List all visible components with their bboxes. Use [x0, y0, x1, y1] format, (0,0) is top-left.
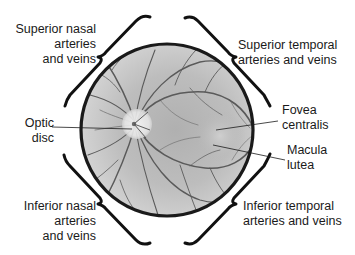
label-superior-nasal: Superior nasal arteries and veins — [6, 22, 96, 67]
label-macula-lutea: Macula lutea — [287, 143, 327, 173]
retina-fundus — [81, 44, 253, 216]
label-inferior-temporal: Inferior temporal arteries and veins — [243, 199, 342, 229]
label-fovea-centralis: Fovea centralis — [282, 103, 329, 133]
macula-region — [194, 110, 246, 162]
optic-disc — [122, 109, 152, 139]
label-optic-disc: Optic disc — [10, 116, 54, 146]
label-superior-temporal: Superior temporal arteries and veins — [238, 38, 337, 68]
label-inferior-nasal: Inferior nasal arteries and veins — [6, 199, 96, 244]
